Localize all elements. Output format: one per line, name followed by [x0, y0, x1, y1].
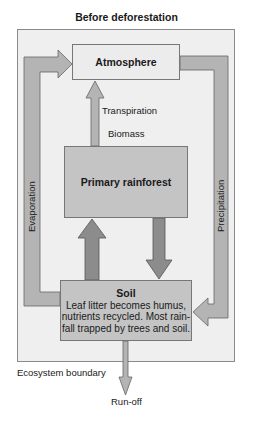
nutrient-uptake-arrow [78, 219, 106, 280]
soil-description-line-3: fall trapped by trees and soil. [62, 323, 190, 335]
primary-rainforest-label: Primary rainforest [81, 176, 171, 188]
runoff-arrow [119, 341, 132, 395]
soil-title: Soil [116, 288, 135, 300]
soil-box: Soil Leaf litter becomes humus, nutrient… [60, 280, 192, 341]
evaporation-label: Evaporation [26, 181, 37, 232]
litter-fall-arrow [146, 218, 172, 279]
soil-description-line-2: nutrients recycled. Most rain- [62, 311, 190, 323]
runoff-label: Run-off [111, 396, 142, 407]
soil-description-line-1: Leaf litter becomes humus, [66, 300, 186, 312]
ecosystem-boundary-label: Ecosystem boundary [17, 367, 106, 378]
atmosphere-box: Atmosphere [72, 44, 180, 80]
transpiration-label: Transpiration [102, 105, 157, 116]
biomass-label: Biomass [108, 128, 144, 139]
precipitation-label: Precipitation [215, 180, 226, 232]
atmosphere-label: Atmosphere [95, 56, 156, 68]
primary-rainforest-box: Primary rainforest [64, 146, 188, 218]
